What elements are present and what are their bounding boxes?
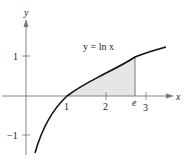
tick-label-x-3: 3 [143,102,148,113]
tick-label-y-neg1: −1 [7,130,18,141]
function-label: y = ln x [83,41,114,52]
tick-label-x-e: e [132,97,137,108]
x-axis-arrow-icon [166,94,174,99]
ln-graph: y x y = ln x 1 2 e 3 1 −1 [0,0,187,162]
x-axis-label: x [175,91,181,102]
tick-label-y-1: 1 [13,51,18,62]
y-axis-label: y [23,7,29,18]
y-axis-arrow-icon [24,19,29,27]
tick-label-x-2: 2 [103,101,108,112]
tick-label-x-1: 1 [64,101,69,112]
